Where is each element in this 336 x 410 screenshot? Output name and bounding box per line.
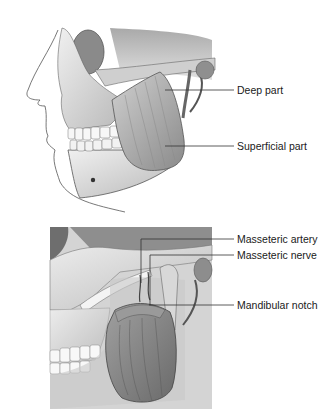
ear-canal <box>196 61 214 79</box>
label-masseteric-artery: Masseteric artery <box>237 233 318 245</box>
label-superficial-part: Superficial part <box>237 140 307 152</box>
styloid-process <box>183 70 190 118</box>
mastoid-hook <box>190 75 202 112</box>
mental-foramen <box>91 178 95 182</box>
masseter-reflected <box>106 304 177 403</box>
label-deep-part: Deep part <box>237 84 283 96</box>
label-mandibular-notch: Mandibular notch <box>237 299 318 311</box>
label-masseteric-nerve: Masseteric nerve <box>237 249 317 261</box>
ear-region <box>194 258 212 282</box>
figure-masseter-lateral: Deep part Superficial part <box>0 0 336 220</box>
figure-masseter-reflected: Masseteric artery Masseteric nerve Mandi… <box>0 220 336 410</box>
skull-illustration-top <box>0 0 336 220</box>
